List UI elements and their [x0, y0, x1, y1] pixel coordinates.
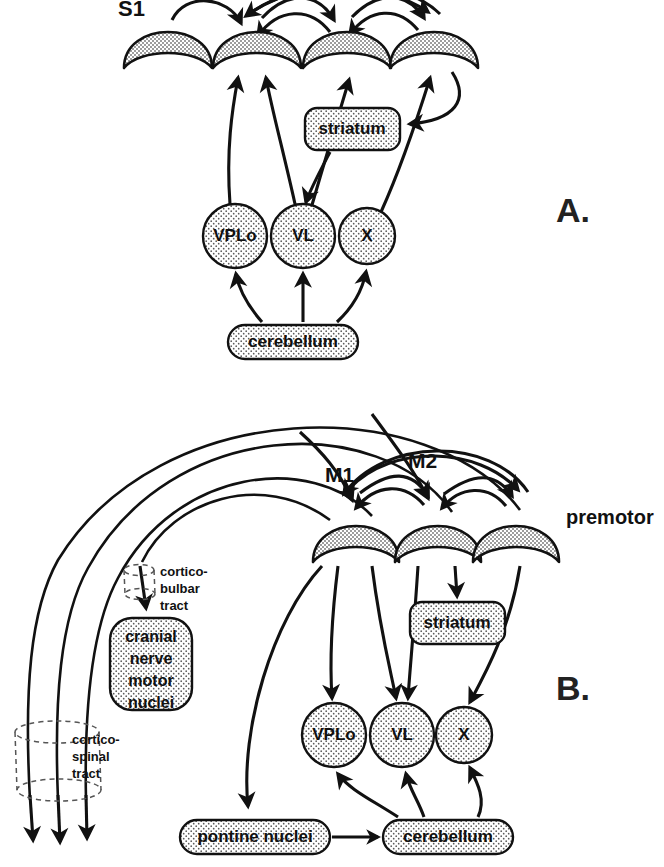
gyrus-s1[interactable] [124, 32, 212, 68]
cerebellum-box-b[interactable] [383, 820, 513, 854]
arc-a2-to-a3 [262, 0, 334, 20]
striatum-box[interactable] [305, 108, 400, 150]
arrow-m2-to-striatum [455, 566, 457, 596]
gyrus-a4[interactable] [390, 32, 478, 68]
vl-circle-b[interactable] [370, 703, 434, 767]
figure-root: S1 striatum VPLo [0, 0, 664, 867]
tract-fiber-corticobulbar [142, 495, 330, 562]
arrow-m1-to-vplo [331, 566, 338, 698]
cranial-nerve-motor-nuclei[interactable]: cranial nerve motor nuclei [110, 618, 192, 711]
corticobulbar-cylinder-bottom [125, 589, 155, 600]
pontine-nuclei-box[interactable] [180, 820, 330, 854]
arrow-vplo-to-a2 [229, 78, 238, 204]
panel-label-b: B. [556, 669, 590, 707]
arc-premotor-to-m2 [442, 490, 506, 508]
arc-m2-to-m1 [356, 489, 424, 508]
panelA-corticocortical-arcs [172, 0, 440, 36]
nucleus-vl[interactable]: VL [271, 204, 335, 268]
corticobulbar-line-1: cortico- [160, 564, 208, 579]
arrow-cerebellum-to-x [337, 272, 366, 322]
corticospinal-tract-label: cortico- spinal tract [72, 732, 120, 781]
gyrus-m2[interactable] [395, 526, 481, 562]
corticospinal-cylinder-side-left [15, 732, 17, 790]
gyrus-a3[interactable] [303, 32, 391, 68]
panelB-pontine-nuclei[interactable]: pontine nuclei [180, 820, 330, 854]
vl-circle[interactable] [271, 204, 335, 268]
arrow-vl-to-a2 [266, 78, 295, 204]
arrow-striatum-to-vl [306, 152, 330, 202]
nucleus-vl-b[interactable]: VL [370, 703, 434, 767]
corticospinal-line-2: spinal [72, 749, 110, 764]
x-circle[interactable] [339, 208, 395, 264]
arrow-corticospinal-2 [58, 795, 60, 842]
cranial-nerve-motor-nuclei-box[interactable] [110, 618, 192, 710]
arrow-cerebellum-to-x-b [470, 768, 481, 817]
circuit-diagram: S1 striatum VPLo [0, 0, 664, 867]
panelA-thalamic-nuclei: VPLo VL X [203, 204, 395, 268]
x-circle-b[interactable] [436, 707, 492, 763]
nucleus-vplo[interactable]: VPLo [203, 204, 267, 268]
vplo-circle[interactable] [203, 204, 267, 268]
panelB-cortical-areas [313, 526, 559, 562]
panelB-cerebellum[interactable]: cerebellum [383, 820, 513, 854]
panelA-cortical-areas [124, 32, 478, 68]
corticobulbar-line-3: tract [160, 598, 189, 613]
arrow-m1-to-pontine [247, 566, 322, 806]
panelB-cerebellar-projections [338, 768, 481, 817]
panelB-striatum[interactable]: striatum [410, 602, 505, 644]
panel-b: cortico- bulbar tract cortico- spinal tr… [15, 414, 654, 854]
arc-external-to-m1 [300, 432, 352, 500]
corticospinal-line-1: cortico- [72, 732, 120, 747]
gyrus-a2[interactable] [213, 32, 301, 68]
nucleus-x-b[interactable]: X [436, 707, 492, 763]
nucleus-x[interactable]: X [339, 208, 395, 264]
panelA-striatum[interactable]: striatum [305, 108, 400, 150]
cerebellum-box[interactable] [228, 325, 358, 359]
panelA-cerebellar-projections [236, 272, 366, 322]
arrow-cerebellum-to-vplo-b [338, 774, 398, 817]
vplo-circle-b[interactable] [302, 703, 366, 767]
corticobulbar-line-2: bulbar [160, 581, 200, 596]
panel-a: S1 striatum VPLo [118, 0, 590, 359]
arrow-m1-to-vl [372, 566, 396, 698]
arrow-corticospinal-1 [30, 795, 33, 840]
arrow-corticobulbar-to-cn [140, 566, 146, 608]
arc-s1-to-a2 [172, 1, 241, 23]
panelB-thalamic-nuclei: VPLo VL X [302, 703, 492, 767]
corticobulbar-cylinder-side-right [154, 570, 155, 594]
panelA-cerebellum[interactable]: cerebellum [228, 325, 358, 359]
corticobulbar-cylinder-side-left [124, 570, 125, 594]
arrow-cerebellum-to-vplo [236, 274, 262, 322]
nucleus-vplo-b[interactable]: VPLo [302, 703, 366, 767]
label-s1: S1 [118, 0, 145, 21]
striatum-box-b[interactable] [410, 602, 505, 644]
arc-a4-to-a3 [350, 13, 418, 34]
panel-label-a: A. [556, 191, 590, 229]
gyrus-m1[interactable] [313, 526, 399, 562]
corticospinal-cylinder-side-right [99, 732, 101, 790]
arrow-corticospinal-3 [86, 795, 87, 838]
label-premotor: premotor [566, 506, 654, 528]
arrow-cerebellum-to-vl-b [406, 774, 424, 817]
gyrus-premotor[interactable] [473, 526, 559, 562]
corticobulbar-tract-label: cortico- bulbar tract [160, 564, 208, 613]
arc-m2-to-premotor [444, 478, 512, 496]
